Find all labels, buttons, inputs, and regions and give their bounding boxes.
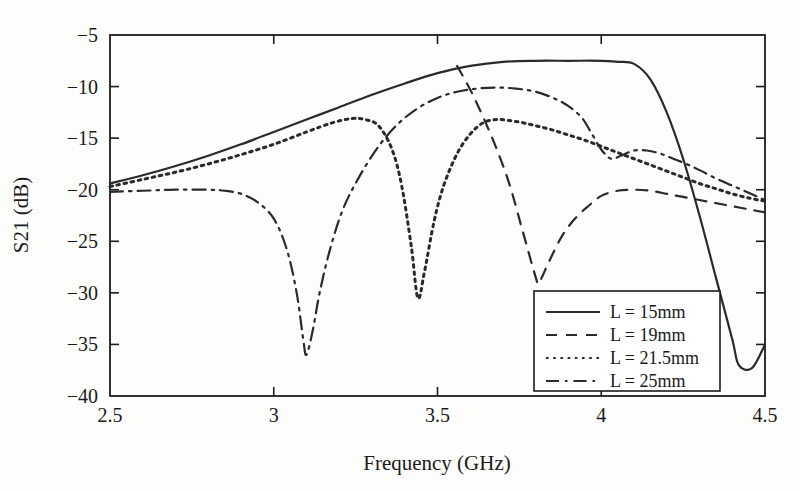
x-tick-label: 2.5: [98, 404, 123, 426]
x-tick-label: 3.5: [425, 404, 450, 426]
y-tick-label: −40: [67, 385, 98, 407]
legend-label: L = 25mm: [610, 371, 685, 391]
y-tick-label: −15: [67, 127, 98, 149]
chart-page: 2.533.544.5 −5−10−15−20−25−30−35−40 Freq…: [0, 0, 800, 491]
y-tick-label: −30: [67, 282, 98, 304]
curve-l-19mm: [457, 66, 765, 284]
y-tick-label: −35: [67, 333, 98, 355]
y-axis-tick-labels: −5−10−15−20−25−30−35−40: [67, 24, 98, 407]
y-tick-label: −5: [77, 24, 98, 46]
legend-label: L = 21.5mm: [610, 348, 699, 368]
y-tick-label: −20: [67, 179, 98, 201]
s21-frequency-line-chart: 2.533.544.5 −5−10−15−20−25−30−35−40 Freq…: [0, 0, 800, 491]
legend-label: L = 19mm: [610, 325, 685, 345]
legend-label: L = 15mm: [610, 302, 685, 322]
curve-l-21.5mm: [110, 118, 765, 298]
chart-legend: L = 15mmL = 19mmL = 21.5mmL = 25mm: [534, 291, 720, 391]
x-axis-tick-labels: 2.533.544.5: [98, 404, 778, 426]
x-tick-label: 4.5: [753, 404, 778, 426]
x-tick-label: 3: [269, 404, 279, 426]
y-tick-label: −25: [67, 230, 98, 252]
x-axis-label: Frequency (GHz): [363, 451, 511, 475]
x-tick-label: 4: [596, 404, 606, 426]
y-axis-label: S21 (dB): [9, 177, 33, 253]
y-tick-label: −10: [67, 76, 98, 98]
